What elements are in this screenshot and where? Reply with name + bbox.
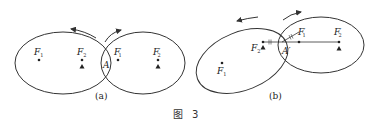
focus-label-f1prime-a: F′1 <box>113 47 122 58</box>
focus-label-f2prime-a: F′2 <box>152 47 161 58</box>
subfigure-b: F1 F2 A′ F′1 F′2 (b) <box>187 12 364 106</box>
triangle-marker-f2-b <box>261 45 266 50</box>
arrow-left-ccw-b <box>237 17 258 21</box>
figure-caption-prefix: 图 <box>173 109 183 120</box>
focus-point-f2-b <box>262 41 265 44</box>
focus-label-f1-a: F1 <box>33 47 43 58</box>
right-ellipse-b <box>278 17 364 73</box>
diagram-canvas: F1 F2 A F′1 F′2 (a) F1 F2 <box>0 0 370 123</box>
triangle-marker-f2-a <box>80 64 85 69</box>
focus-label-f2-a: F2 <box>76 47 86 58</box>
subfigure-label-b: (b) <box>269 91 282 101</box>
triangle-marker-f2prime-b <box>337 46 342 51</box>
tangent-point-label-a: A <box>102 60 110 70</box>
subfigure-label-a: (a) <box>95 91 107 101</box>
focus-label-f2-b: F2 <box>250 43 260 54</box>
focus-point-f1-a <box>38 59 41 62</box>
focus-point-f2-a <box>81 59 84 62</box>
triangle-marker-f2prime-a <box>156 64 161 69</box>
focus-label-f2prime-b: F′2 <box>333 27 342 38</box>
arrow-right-cw-a <box>105 30 121 42</box>
focus-point-f2prime-a <box>157 59 160 62</box>
right-ellipse-a <box>101 32 185 94</box>
tangent-point-label-b: A′ <box>281 46 291 56</box>
focus-point-f1prime-a <box>117 59 120 62</box>
arrow-left-ccw-a <box>71 29 96 38</box>
focus-point-f2prime-b <box>338 41 341 44</box>
figure-caption-number: 3 <box>192 109 198 120</box>
focus-point-f1-b <box>221 62 224 65</box>
subfigure-a: F1 F2 A F′1 F′2 (a) <box>15 29 185 101</box>
arrow-right-cw-b <box>283 12 301 20</box>
focus-label-f1prime-b: F′1 <box>297 27 306 38</box>
focus-label-f1-b: F1 <box>216 66 226 77</box>
focus-point-f1prime-b <box>298 41 301 44</box>
segment-aprime-f1prime-b <box>282 32 299 42</box>
left-ellipse-a <box>15 32 111 94</box>
